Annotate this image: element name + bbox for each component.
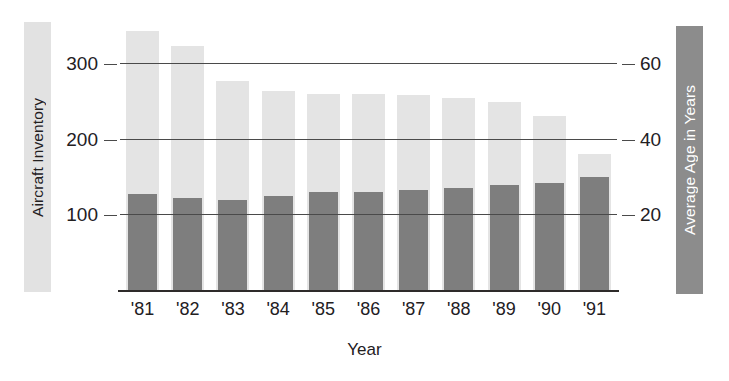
x-tick-label: '85 <box>301 299 346 320</box>
bar-group <box>126 8 159 290</box>
gridline-300 <box>120 63 617 64</box>
bar-group <box>171 8 204 290</box>
bar-group <box>533 8 566 290</box>
bar-group <box>216 8 249 290</box>
plot-area <box>120 8 617 290</box>
x-tick-label: '89 <box>481 299 526 320</box>
right-tick-label-20: 20 <box>640 205 661 224</box>
left-tick-mark-300 <box>104 64 117 65</box>
bar-group <box>397 8 430 290</box>
bar-group <box>262 8 295 290</box>
x-tick-label: '88 <box>436 299 481 320</box>
bar-average-age <box>128 194 157 290</box>
chart-container: Aircraft Inventory Average Age in Years … <box>0 0 729 381</box>
x-tick-label: '82 <box>165 299 210 320</box>
bar-average-age <box>535 183 564 290</box>
x-tick-label: '84 <box>256 299 301 320</box>
right-tick-mark-20 <box>622 215 635 216</box>
bar-group <box>578 8 611 290</box>
bar-average-age <box>354 192 383 290</box>
x-tick-label: '90 <box>527 299 572 320</box>
right-tick-label-40: 40 <box>640 130 661 149</box>
legend-aircraft-inventory: Aircraft Inventory <box>24 22 51 292</box>
bar-group <box>488 8 521 290</box>
x-tick-label: '91 <box>572 299 617 320</box>
x-axis-line <box>118 290 619 292</box>
gridline-100 <box>120 214 617 215</box>
right-tick-mark-60 <box>622 64 635 65</box>
left-tick-mark-100 <box>104 215 117 216</box>
x-tick-label: '83 <box>210 299 255 320</box>
right-axis-title: Average Age in Years <box>681 85 699 235</box>
bar-average-age <box>399 190 428 290</box>
x-tick-label: '86 <box>346 299 391 320</box>
x-tick-label: '87 <box>391 299 436 320</box>
bar-average-age <box>173 198 202 290</box>
left-axis-title: Aircraft Inventory <box>29 98 47 217</box>
bar-average-age <box>444 188 473 290</box>
bar-average-age <box>264 196 293 290</box>
gridline-200 <box>120 139 617 140</box>
bar-average-age <box>309 192 338 290</box>
right-tick-mark-40 <box>622 140 635 141</box>
bar-group <box>352 8 385 290</box>
right-tick-label-60: 60 <box>640 54 661 73</box>
bar-group <box>442 8 475 290</box>
x-tick-label: '81 <box>120 299 165 320</box>
x-axis-tick-labels: '81'82'83'84'85'86'87'88'89'90'91 <box>120 299 617 325</box>
left-axis-ticks: 100200300 <box>60 0 118 300</box>
legend-average-age: Average Age in Years <box>676 26 703 294</box>
left-tick-mark-200 <box>104 140 117 141</box>
bar-average-age <box>580 177 609 290</box>
right-axis-ticks: 204060 <box>622 0 676 300</box>
left-tick-label-300: 300 <box>66 54 98 73</box>
bar-group <box>307 8 340 290</box>
left-tick-label-200: 200 <box>66 130 98 149</box>
left-tick-label-100: 100 <box>66 205 98 224</box>
x-axis-title: Year <box>0 340 729 360</box>
bar-average-age <box>490 185 519 290</box>
